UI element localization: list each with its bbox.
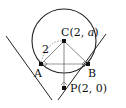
label-a: A [33, 67, 43, 80]
point-p [62, 86, 66, 90]
label-p: P(2, 0) [70, 82, 107, 95]
label-b: B [88, 67, 96, 80]
geometry-diagram: C(2, a) 2 A B P(2, 0) [0, 0, 126, 108]
point-c [62, 39, 66, 43]
point-a [39, 62, 43, 66]
radius-cb [64, 41, 88, 64]
label-c: C(2, a) [61, 26, 99, 39]
point-b [86, 62, 90, 66]
label-radius: 2 [42, 43, 49, 56]
